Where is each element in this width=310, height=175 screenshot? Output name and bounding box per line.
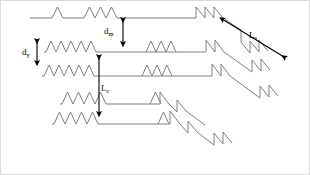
- diagram-svg: [0, 0, 310, 175]
- label-l-s-base: L: [249, 30, 255, 40]
- descending-ribbon-3: [230, 76, 278, 98]
- descending-ribbon-4: [169, 100, 186, 112]
- terrace-line-3: [42, 64, 230, 76]
- label-l-s: Ls: [249, 31, 257, 40]
- label-d-m-base: d: [104, 26, 109, 36]
- label-d-m: dm: [104, 27, 114, 36]
- figure-border: [1, 1, 310, 175]
- terrace-line-3b: [142, 65, 172, 76]
- label-d-y: dy: [22, 48, 30, 57]
- label-d-y-sub: y: [27, 51, 30, 58]
- figure-canvas: dm dy Lc Ls: [0, 0, 310, 175]
- label-d-m-sub: m: [109, 30, 114, 37]
- descending-ribbon-5: [180, 121, 197, 133]
- terrace-line-5b: [158, 112, 169, 124]
- descending-ribbon-6: [197, 132, 232, 145]
- terrace-line-1: [30, 7, 223, 18]
- terrace-line-2b: [146, 41, 176, 52]
- terrace-lines: [30, 7, 278, 145]
- terrace-line-4b: [150, 92, 161, 104]
- label-l-c: Lc: [101, 84, 109, 93]
- label-l-c-base: L: [101, 83, 107, 93]
- descending-ribbon-7: [186, 111, 205, 125]
- descending-ribbon-2: [224, 52, 270, 72]
- label-l-c-sub: c: [107, 87, 110, 94]
- label-l-s-sub: s: [255, 34, 258, 41]
- terrace-line-2: [44, 40, 224, 52]
- label-d-y-base: d: [22, 47, 27, 57]
